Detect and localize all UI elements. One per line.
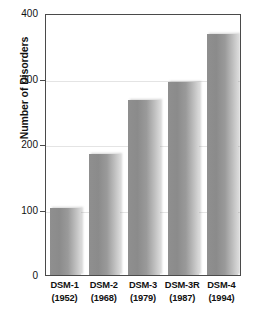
x-axis-label-name: DSM-1	[51, 280, 79, 290]
x-axis-label-name: DSM-3R	[165, 280, 200, 290]
x-axis-label-name: DSM-2	[90, 280, 118, 290]
bar-chart: Number of Disorders 0100200300400 DSM-1(…	[0, 0, 253, 311]
x-axis-label: DSM-4(1994)	[199, 279, 244, 304]
bar	[168, 82, 199, 275]
y-tick-label: 100	[4, 206, 38, 216]
y-tick-label: 400	[4, 9, 38, 19]
x-axis-label-year: (1994)	[199, 292, 244, 305]
bar	[89, 154, 120, 275]
y-tick-label: 0	[4, 271, 38, 281]
x-axis-label-name: DSM-4	[207, 280, 235, 290]
x-axis-labels: DSM-1(1952)DSM-2(1968)DSM-3(1979)DSM-3R(…	[45, 279, 241, 309]
plot-area	[45, 14, 241, 276]
bar	[50, 208, 81, 275]
y-tick-label: 200	[4, 140, 38, 150]
y-tick-label: 300	[4, 75, 38, 85]
x-axis-label-name: DSM-3	[129, 280, 157, 290]
bar	[128, 100, 159, 275]
bar	[207, 34, 238, 275]
